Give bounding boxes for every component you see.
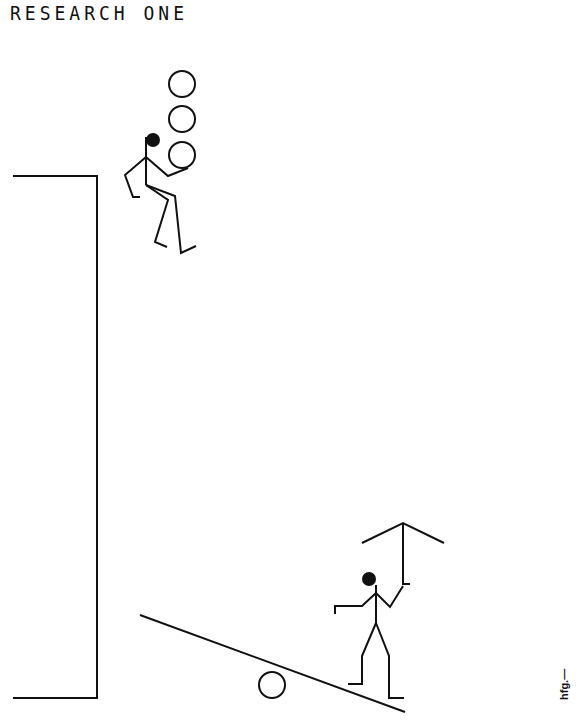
juggler-head	[146, 133, 160, 147]
wall-outline	[13, 176, 97, 698]
lifter-figure	[335, 572, 404, 698]
fulcrum-ball	[259, 672, 285, 698]
credit-mark: hfg.—	[558, 669, 570, 700]
juggler-figure	[125, 133, 196, 253]
juggling-balls	[169, 71, 195, 168]
lifter-head	[362, 572, 376, 586]
illustration	[0, 0, 584, 723]
